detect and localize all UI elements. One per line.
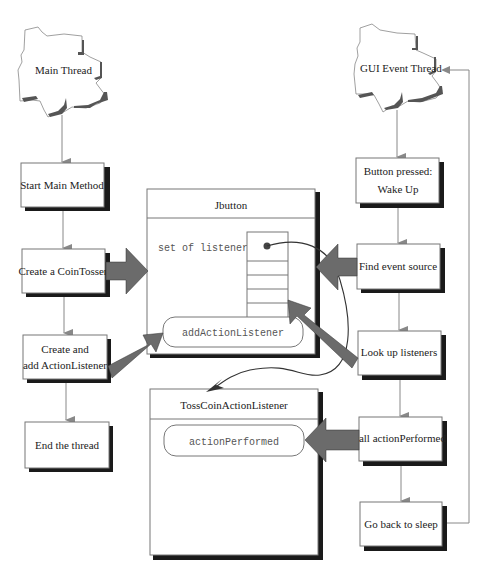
gui-step-look-up-listeners: Look up listeners: [358, 331, 446, 380]
svg-text:Find event source: Find event source: [359, 260, 437, 272]
svg-text:Start Main Method: Start Main Method: [20, 179, 104, 191]
jbutton-method-addactionlistener: addActionListener: [182, 328, 284, 339]
svg-text:add ActionListener: add ActionListener: [23, 359, 107, 371]
main-thread-label: Main Thread: [35, 64, 92, 76]
main-step-add-actionlistener: Create and add ActionListener: [23, 335, 111, 383]
main-step-create-cointosser: Create a CoinTosser: [18, 249, 110, 297]
fat-arrow-find-to-jbutton-icon: [316, 244, 357, 290]
main-thread-cloud: Main Thread: [18, 27, 108, 117]
main-step-start: Start Main Method: [20, 163, 110, 211]
svg-text:Go back to sleep: Go back to sleep: [364, 518, 438, 530]
jbutton-field-listeners: set of listeners: [158, 243, 254, 254]
jbutton-object: Jbutton set of listeners addActionListen…: [147, 189, 320, 358]
listener-method-actionperformed: actionPerformed: [189, 437, 279, 448]
gui-step-wake-up: Button pressed: Wake Up: [356, 158, 444, 208]
svg-text:call actionPerformed: call actionPerformed: [354, 432, 446, 444]
listener-title: TossCoinActionListener: [180, 399, 288, 411]
gui-step-find-event-source: Find event source: [357, 244, 445, 293]
gui-thread-cloud: GUI Event Thread: [354, 24, 443, 112]
svg-text:Create a CoinTosser: Create a CoinTosser: [18, 265, 107, 277]
svg-text:Create and: Create and: [41, 343, 89, 355]
svg-text:Wake Up: Wake Up: [378, 183, 419, 195]
fat-arrow-create-to-jbutton-icon: [106, 248, 148, 294]
loop-back-arrowhead-icon: [441, 66, 450, 74]
gui-step-call-actionperformed: call actionPerformed: [354, 417, 447, 466]
svg-text:End the thread: End the thread: [35, 439, 100, 451]
main-step-end-thread: End the thread: [25, 422, 113, 472]
tosscoin-listener-object: TossCoinActionListener actionPerformed: [150, 389, 323, 560]
svg-text:Button pressed:: Button pressed:: [364, 165, 433, 177]
gui-step-go-back-to-sleep: Go back to sleep: [360, 502, 447, 551]
gui-thread-label: GUI Event Thread: [360, 62, 442, 74]
jbutton-title: Jbutton: [215, 199, 248, 211]
svg-text:Look up listeners: Look up listeners: [361, 346, 437, 358]
